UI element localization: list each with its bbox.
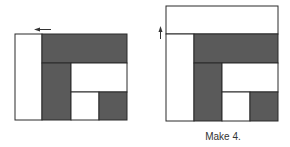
- arrow-up-icon: [159, 26, 163, 39]
- middle-light: [71, 63, 127, 92]
- figure-after: [159, 6, 279, 121]
- top-light-band: [166, 6, 278, 34]
- figure-before: [15, 28, 127, 121]
- diagram-canvas: [0, 0, 290, 147]
- dark-vertical: [42, 63, 71, 120]
- dark-vertical: [194, 63, 222, 121]
- left-column: [15, 34, 42, 120]
- arrow-left-icon: [34, 28, 51, 32]
- bottom-light: [71, 92, 99, 120]
- caption: Make 4.: [196, 131, 250, 142]
- bottom-light: [222, 92, 250, 121]
- left-column: [166, 34, 194, 121]
- bottom-dark: [250, 92, 278, 121]
- middle-light: [222, 63, 278, 92]
- top-dark-band: [194, 34, 278, 63]
- bottom-dark: [99, 92, 127, 120]
- top-dark-band: [42, 34, 127, 63]
